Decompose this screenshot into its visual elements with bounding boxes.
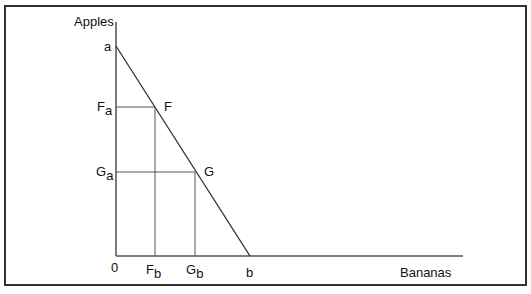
label-origin: 0	[111, 260, 118, 275]
y-axis-label: Apples	[74, 14, 114, 29]
x-axis-label: Bananas	[400, 265, 452, 280]
label-Gb-sub: b	[196, 266, 203, 281]
label-a: a	[104, 39, 112, 54]
label-Gb-main: G	[186, 262, 196, 277]
label-Fb: Fb	[146, 262, 161, 281]
label-Fb-main: F	[146, 262, 154, 277]
label-Fa: Fa	[97, 99, 113, 118]
label-Gb: Gb	[186, 262, 203, 281]
label-Ga: Ga	[96, 164, 114, 183]
ppf-diagram: Apples a F G Fa Ga 0 Fb Gb b Bananas	[0, 0, 531, 294]
label-Fa-main: F	[97, 99, 105, 114]
label-b: b	[246, 265, 253, 280]
label-G: G	[204, 164, 214, 179]
label-Fb-sub: b	[154, 266, 161, 281]
label-Ga-sub: a	[106, 168, 114, 183]
label-F: F	[164, 99, 172, 114]
label-Ga-main: G	[96, 164, 106, 179]
frontier-line	[116, 46, 250, 256]
label-Fa-sub: a	[105, 103, 113, 118]
